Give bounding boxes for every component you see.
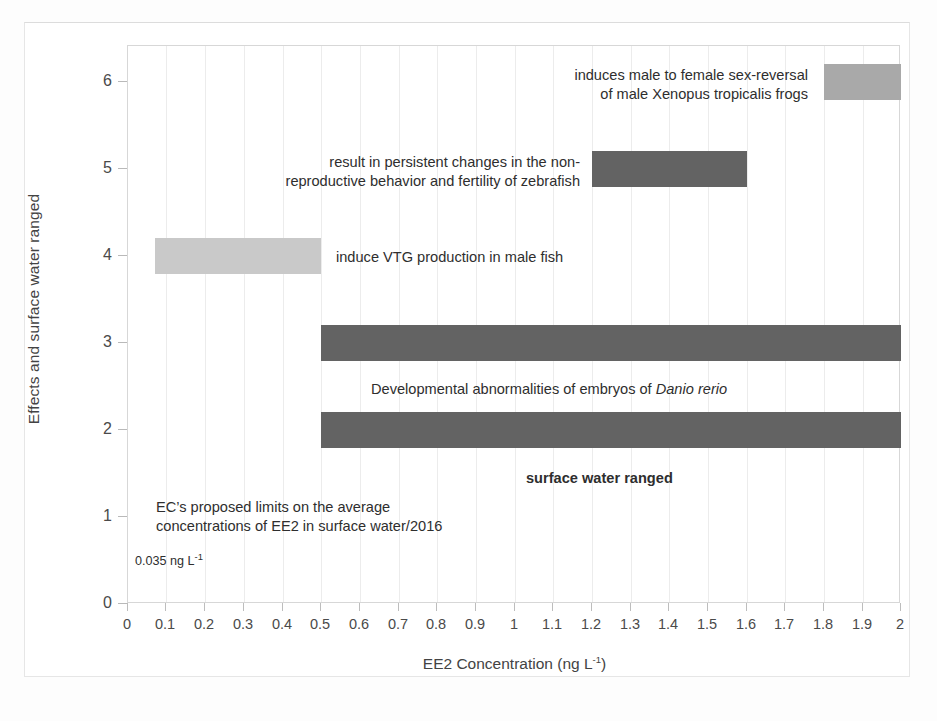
x-axis-title-text: EE2 Concentration (ng L (423, 655, 593, 672)
gridline-1.7 (785, 46, 786, 602)
y-tick-5 (118, 168, 127, 169)
annotation-xenopus: induces male to female sex-reversal of m… (388, 66, 808, 104)
y-tick-label-4: 4 (82, 247, 112, 263)
figure-container: Effects and surface water ranged EE2 Con… (0, 0, 937, 721)
y-tick-label-5: 5 (82, 160, 112, 176)
y-tick-label-6: 6 (82, 73, 112, 89)
limit-number: 0.035 (135, 554, 167, 568)
x-tick-1.7 (784, 603, 785, 611)
x-tick-0.5 (320, 603, 321, 611)
annotation-danio-prefix: Developmental abnormalities of embryos o… (371, 381, 656, 397)
annotation-limit-value: 0.035 ng L-1 (135, 554, 203, 568)
x-tick-0.9 (475, 603, 476, 611)
x-tick-1.5 (707, 603, 708, 611)
annotation-xenopus-line1: induces male to female sex-reversal (388, 66, 808, 85)
x-tick-0 (127, 603, 128, 611)
x-tick-0.7 (398, 603, 399, 611)
annotation-ec-line2: concentrations of EE2 in surface water/2… (156, 517, 576, 536)
x-axis-title-exponent: -1 (593, 654, 601, 665)
x-tick-0.6 (359, 603, 360, 611)
x-tick-1.6 (746, 603, 747, 611)
y-tick-2 (118, 429, 127, 430)
annotation-ec-limits: EC’s proposed limits on the average conc… (156, 498, 576, 536)
x-tick-0.8 (436, 603, 437, 611)
y-tick-0 (118, 603, 127, 604)
x-tick-1.2 (591, 603, 592, 611)
annotation-danio-species: Danio rerio (656, 381, 727, 397)
gridline-1.5 (708, 46, 709, 602)
bar-sex-reversal-xenopus[interactable] (824, 64, 901, 100)
y-tick-6 (118, 81, 127, 82)
y-tick-label-3: 3 (82, 334, 112, 350)
plot-area: induces male to female sex-reversal of m… (127, 45, 900, 603)
y-tick-1 (118, 516, 127, 517)
annotation-zebrafish-line1: result in persistent changes in the non- (148, 153, 580, 172)
limit-unit-exponent: -1 (195, 551, 203, 562)
gridline-1.2 (592, 46, 593, 602)
x-tick-1.4 (668, 603, 669, 611)
annotation-ec-line1: EC’s proposed limits on the average (156, 498, 576, 517)
y-tick-label-0: 0 (82, 595, 112, 611)
x-axis-title: EE2 Concentration (ng L-1) (127, 655, 902, 673)
y-tick-label-1: 1 (82, 508, 112, 524)
bar-zebrafish-behavior[interactable] (592, 151, 747, 187)
annotation-zebrafish: result in persistent changes in the non-… (148, 153, 580, 191)
x-tick-1 (514, 603, 515, 611)
annotation-danio-rerio: Developmental abnormalities of embryos o… (371, 380, 931, 399)
x-tick-label-2: 2 (877, 617, 923, 632)
x-tick-2 (900, 603, 901, 611)
annotation-vtg: induce VTG production in male fish (336, 248, 736, 267)
x-tick-1.8 (823, 603, 824, 611)
gridline-1.8 (824, 46, 825, 602)
y-tick-3 (118, 342, 127, 343)
x-tick-0.2 (204, 603, 205, 611)
bar-surface-water-ranged[interactable] (321, 412, 901, 448)
bar-vtg-production[interactable] (155, 238, 321, 274)
annotation-surface-water-ranged: surface water ranged (526, 469, 866, 488)
x-tick-0.1 (165, 603, 166, 611)
x-tick-1.1 (552, 603, 553, 611)
x-axis-title-tail: ) (601, 655, 606, 672)
x-tick-0.4 (282, 603, 283, 611)
gridline-1.4 (669, 46, 670, 602)
x-tick-1.9 (862, 603, 863, 611)
annotation-xenopus-line2: of male Xenopus tropicalis frogs (388, 85, 808, 104)
y-axis-title: Effects and surface water ranged (25, 69, 43, 549)
x-tick-1.3 (630, 603, 631, 611)
gridline-1.3 (631, 46, 632, 602)
gridline-1.9 (863, 46, 864, 602)
annotation-zebrafish-line2: reproductive behavior and fertility of z… (148, 172, 580, 191)
gridline-1.6 (747, 46, 748, 602)
x-tick-0.3 (243, 603, 244, 611)
limit-unit: ng L (167, 554, 195, 568)
y-tick-4 (118, 255, 127, 256)
y-tick-label-2: 2 (82, 421, 112, 437)
bar-developmental-abnormalities[interactable] (321, 325, 901, 361)
